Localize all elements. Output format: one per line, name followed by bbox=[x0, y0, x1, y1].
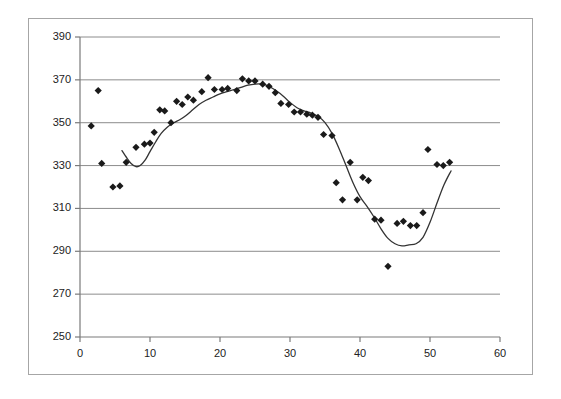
y-axis-label-370: 370 bbox=[37, 73, 71, 85]
x-axis-label-10: 10 bbox=[135, 347, 165, 359]
x-axis-label-40: 40 bbox=[345, 347, 375, 359]
x-axis-label-30: 30 bbox=[275, 347, 305, 359]
x-axis-label-20: 20 bbox=[205, 347, 235, 359]
y-axis-label-270: 270 bbox=[37, 287, 71, 299]
y-axis-label-350: 350 bbox=[37, 116, 71, 128]
chart-outer-frame bbox=[28, 18, 533, 375]
y-axis-label-390: 390 bbox=[37, 30, 71, 42]
chart-container: 390370350330310290270250 0102030405060 bbox=[0, 0, 561, 399]
y-axis-label-290: 290 bbox=[37, 244, 71, 256]
x-axis-label-60: 60 bbox=[485, 347, 515, 359]
y-axis-label-330: 330 bbox=[37, 159, 71, 171]
x-axis-label-0: 0 bbox=[65, 347, 95, 359]
x-axis-label-50: 50 bbox=[415, 347, 445, 359]
y-axis-label-250: 250 bbox=[37, 330, 71, 342]
y-axis-label-310: 310 bbox=[37, 201, 71, 213]
